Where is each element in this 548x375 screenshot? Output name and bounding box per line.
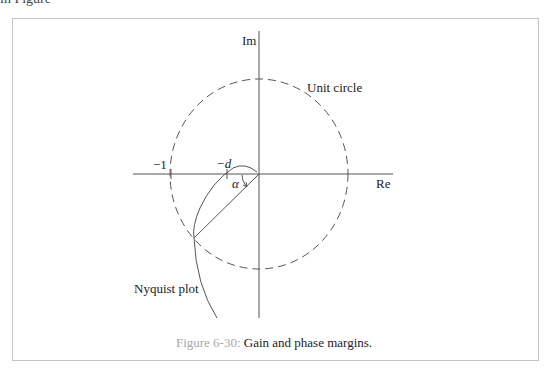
figure-caption: Figure 6-30: Gain and phase margins. [0,335,548,351]
alpha-arc [242,175,246,186]
figure-number: Figure 6-30: [176,335,241,350]
phase-margin-line [194,174,259,238]
unit-circle-label: Unit circle [307,80,362,95]
re-axis-label: Re [376,176,391,191]
nyquist-diagram: Im Re Unit circle −1 −d α Nyquist plot [0,0,548,375]
figure-caption-text: Gain and phase margins. [241,335,373,350]
minus-d-label: −d [216,156,232,171]
im-axis-label: Im [242,33,256,48]
nyquist-curve [194,166,257,318]
nyquist-plot-label: Nyquist plot [134,281,199,296]
minus-one-label: −1 [153,157,167,172]
alpha-label: α [232,176,240,191]
